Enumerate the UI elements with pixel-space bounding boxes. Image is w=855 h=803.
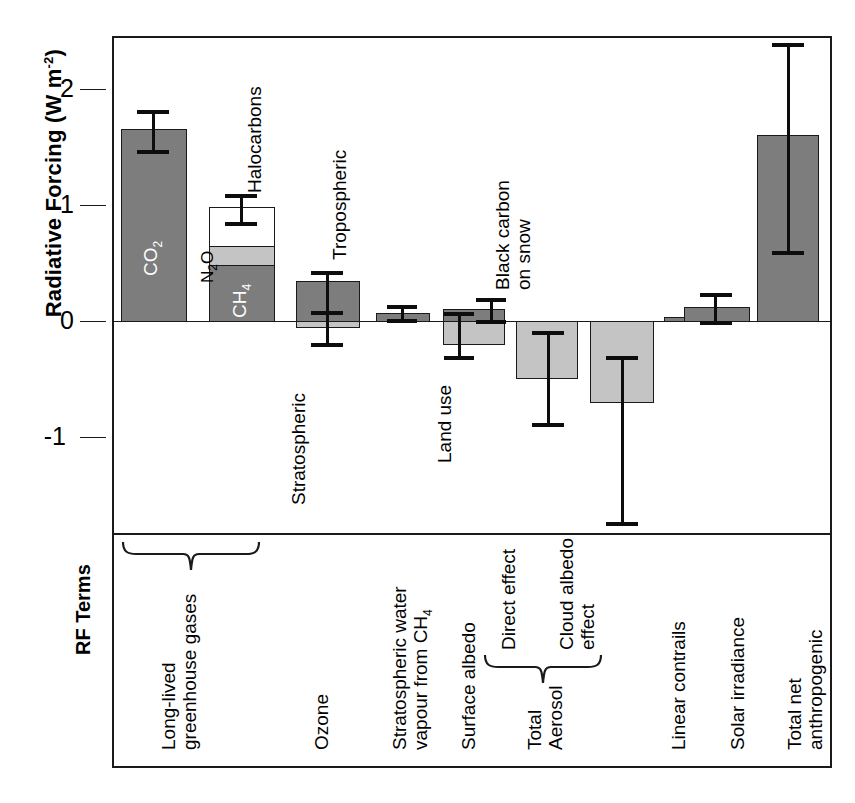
errorbar-cap-top-halocarbons	[225, 194, 257, 198]
errorbar-cap-top-ozone	[311, 271, 343, 275]
y-tick-label-m1: -1	[14, 424, 66, 449]
errorbar-cap-bottom-land-use	[444, 356, 474, 360]
errorbar-line-ozone	[326, 271, 329, 347]
errorbar-cap-bottom-co2	[137, 150, 169, 154]
bar-label-n2o: N2O	[198, 251, 223, 283]
bar-label-stratospheric: Stratospheric	[289, 393, 309, 505]
errorbar-cap-top-direct-effect	[532, 331, 564, 335]
errorbar-cap-top-cloud-albedo	[606, 356, 638, 360]
errorbar-cap-bottom-cloud-albedo	[606, 522, 638, 526]
bar-label-black-carbon-on-snow: Black carbonon snow	[492, 180, 534, 290]
y-tick-label-2: 2	[22, 76, 74, 101]
errorbar-cap-top-black-carbon	[476, 298, 506, 302]
category-label-total-aerosol: TotalAerosol	[524, 686, 566, 750]
category-label-linear-contrails: Linear contrails	[668, 621, 689, 750]
y-tick-mark-1	[80, 205, 106, 206]
category-label-ozone: Ozone	[311, 694, 332, 750]
errorbar-cap-bottom-total-net	[772, 251, 804, 255]
errorbar-cap-bottom-ozone	[311, 343, 343, 347]
y-axis-title-close: )	[41, 49, 66, 57]
errorbar-cap-top-land-use	[444, 312, 474, 316]
y-tick-mark-m1	[80, 437, 106, 438]
brace-long-lived-greenhouse-gases	[120, 540, 262, 574]
bar-co2	[121, 129, 187, 322]
y-axis-title-exponent: -2	[41, 57, 56, 69]
bar-label-ch4: CH4	[230, 284, 257, 318]
radiative-forcing-chart: Radiative Forcing (W m-2) 2 1 0 -1 CO2 C…	[0, 0, 855, 803]
bar-land-use	[443, 321, 505, 345]
errorbar-line-land-use	[458, 312, 461, 360]
bar-label-co2: CO2	[141, 241, 168, 276]
errorbar-line-total-net	[787, 43, 790, 255]
category-label-long-lived-greenhouse-gases: Long-livedgreenhouse gases	[158, 594, 200, 750]
errorbar-cap-bottom-swv	[387, 319, 417, 323]
y-tick-label-0: 0	[22, 308, 74, 333]
errorbar-cap-bottom-direct-effect	[532, 423, 564, 427]
category-label-total-net-anthropogenic: Total netanthropogenic	[784, 630, 826, 750]
category-label-solar-irradiance: Solar irradiance	[727, 617, 748, 750]
bar-label-halocarbons: Halocarbons	[245, 86, 265, 193]
panel-divider	[112, 533, 832, 535]
errorbar-cap-bottom-solar	[700, 321, 732, 325]
errorbar-line-direct-effect	[547, 331, 550, 427]
bar-label-tropospheric: Tropospheric	[330, 150, 350, 260]
errorbar-cap-mid-ozone	[311, 311, 343, 315]
errorbar-line-co2	[152, 110, 155, 152]
errorbar-cap-top-swv	[387, 305, 417, 309]
errorbar-cap-bottom-black-carbon	[476, 320, 506, 324]
sublabel-cloud-albedo-effect: Cloud albedoeffect	[556, 538, 598, 650]
errorbar-line-cloud-albedo	[621, 356, 624, 526]
y-tick-label-1: 1	[22, 192, 74, 217]
sublabel-direct-effect: Direct effect	[498, 549, 519, 650]
y-tick-mark-2	[80, 89, 106, 90]
errorbar-cap-top-solar	[700, 293, 732, 297]
category-label-stratospheric-water-vapour: Stratospheric watervapour from CH4	[389, 586, 439, 750]
bar-label-land-use: Land use	[435, 385, 455, 463]
x-axis-title: RF Terms	[72, 564, 95, 655]
errorbar-cap-top-co2	[137, 110, 169, 114]
bar-solar-irradiance	[684, 307, 750, 322]
errorbar-cap-top-total-net	[772, 43, 804, 47]
y-tick-mark-0	[80, 321, 106, 322]
category-label-surface-albedo: Surface albedo	[458, 622, 479, 750]
brace-total-aerosol	[482, 653, 604, 687]
errorbar-cap-bottom-halocarbons	[225, 222, 257, 226]
